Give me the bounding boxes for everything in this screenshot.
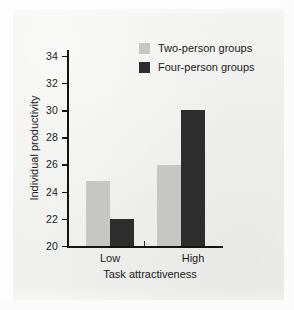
legend-swatch-light-icon	[139, 43, 150, 54]
y-tick-label-22: 22	[46, 213, 58, 225]
page-margin-right	[284, 0, 294, 310]
y-tick-label-28: 28	[46, 131, 58, 143]
page-margin-top	[0, 0, 294, 9]
legend-swatch-dark-icon	[139, 62, 150, 73]
x-tick-label-low: Low	[100, 252, 120, 264]
y-tick-label-26: 26	[46, 158, 58, 170]
chart-figure: Individual productivity 34 32 30 28 26 2…	[0, 0, 294, 310]
x-axis-title: Task attractiveness	[103, 268, 197, 280]
y-tick-label-30: 30	[46, 104, 58, 116]
legend-item-four-person[interactable]: Four-person groups	[139, 59, 255, 75]
plot-area	[67, 56, 222, 246]
y-tick-label-24: 24	[46, 186, 58, 198]
page-margin-left	[0, 0, 13, 310]
legend-label-two-person: Two-person groups	[158, 42, 252, 54]
x-tick-label-high: High	[182, 252, 205, 264]
y-axis-title: Individual productivity	[28, 95, 40, 200]
bar-two-person-low[interactable]	[86, 181, 110, 246]
y-tick-label-32: 32	[46, 77, 58, 89]
chart-legend: Two-person groups Four-person groups	[139, 40, 255, 78]
legend-item-two-person[interactable]: Two-person groups	[139, 40, 255, 56]
legend-label-four-person: Four-person groups	[158, 61, 255, 73]
x-axis-mid-tick	[144, 241, 145, 246]
x-axis-line	[67, 246, 223, 248]
page-margin-bottom	[0, 300, 294, 310]
bar-four-person-low[interactable]	[110, 219, 134, 246]
y-tick-label-34: 34	[46, 50, 58, 62]
bar-four-person-high[interactable]	[181, 110, 205, 246]
bar-two-person-high[interactable]	[157, 165, 181, 246]
y-tick-label-20: 20	[46, 240, 58, 252]
